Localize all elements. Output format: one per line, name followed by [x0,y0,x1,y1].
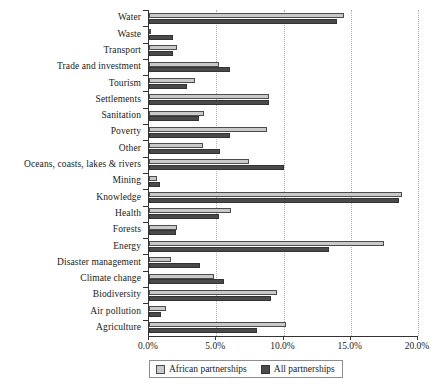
bar-all-partnerships [149,198,399,203]
x-tick [148,336,149,340]
bar-african-partnerships [149,208,231,213]
bar-african-partnerships [149,159,249,164]
bar-african-partnerships [149,322,286,327]
legend-item-african: African partnerships [156,364,247,374]
bar-african-partnerships [149,290,277,295]
bar-row [149,238,418,254]
bar-african-partnerships [149,94,269,99]
category-label: Water [0,10,145,26]
horizontal-bar-chart: WaterWasteTransportTrade and investmentT… [0,0,436,390]
legend-swatch-icon [156,365,165,374]
x-tick-label: 10.0% [270,341,295,351]
bar-row [149,108,418,124]
bar-row [149,222,418,238]
bar-all-partnerships [149,84,187,89]
category-label: Biodiversity [0,287,145,303]
bar-african-partnerships [149,176,157,181]
bar-row [149,303,418,319]
bar-row [149,26,418,42]
bar-all-partnerships [149,312,161,317]
bar-rows [149,10,418,336]
bar-row [149,157,418,173]
category-label: Climate change [0,271,145,287]
bar-row [149,140,418,156]
bar-all-partnerships [149,279,224,284]
bar-all-partnerships [149,35,173,40]
bar-all-partnerships [149,296,271,301]
x-tick-label: 20.0% [405,341,430,351]
bar-african-partnerships [149,274,214,279]
category-label: Poverty [0,124,145,140]
category-label: Air pollution [0,303,145,319]
category-label: Health [0,206,145,222]
bar-african-partnerships [149,143,203,148]
bar-all-partnerships [149,263,200,268]
bar-african-partnerships [149,257,171,262]
x-axis-tick-labels: 0.0%5.0%10.0%15.0%20.0% [0,341,436,355]
bar-african-partnerships [149,306,166,311]
bar-all-partnerships [149,67,230,72]
bar-row [149,320,418,336]
bar-row [149,10,418,26]
bar-all-partnerships [149,247,329,252]
bar-african-partnerships [149,62,219,67]
bar-all-partnerships [149,182,160,187]
bar-african-partnerships [149,241,384,246]
category-label: Waste [0,26,145,42]
bar-african-partnerships [149,78,195,83]
x-tick [350,336,351,340]
x-tick [215,336,216,340]
bar-row [149,189,418,205]
plot-wrapper: WaterWasteTransportTrade and investmentT… [0,0,436,348]
bar-row [149,287,418,303]
bar-row [149,124,418,140]
bar-all-partnerships [149,328,257,333]
category-label: Disaster management [0,254,145,270]
bar-african-partnerships [149,13,344,18]
category-axis-labels: WaterWasteTransportTrade and investmentT… [0,10,145,336]
x-tick-label: 5.0% [205,341,225,351]
x-tick [417,336,418,340]
legend-label: All partnerships [274,364,335,374]
bar-all-partnerships [149,100,269,105]
category-label: Settlements [0,91,145,107]
bar-row [149,59,418,75]
legend-swatch-icon [261,365,270,374]
bar-row [149,91,418,107]
bar-all-partnerships [149,116,199,121]
x-tick-label: 0.0% [138,341,158,351]
bar-row [149,43,418,59]
category-label: Forests [0,222,145,238]
bar-african-partnerships [149,192,402,197]
x-tick-label: 15.0% [337,341,362,351]
x-tick [283,336,284,340]
bar-all-partnerships [149,19,337,24]
bar-row [149,173,418,189]
bar-african-partnerships [149,127,267,132]
gridline [418,10,419,336]
bar-row [149,271,418,287]
category-label: Tourism [0,75,145,91]
bar-african-partnerships [149,111,204,116]
bar-all-partnerships [149,149,220,154]
category-label: Mining [0,173,145,189]
bar-african-partnerships [149,45,177,50]
bar-row [149,206,418,222]
category-label: Other [0,140,145,156]
bar-all-partnerships [149,165,284,170]
category-label: Oceans, coasts, lakes & rivers [0,157,145,173]
bar-row [149,254,418,270]
bar-african-partnerships [149,29,151,34]
category-label: Energy [0,238,145,254]
bar-all-partnerships [149,133,230,138]
bar-all-partnerships [149,214,219,219]
category-label: Transport [0,43,145,59]
category-label: Trade and investment [0,59,145,75]
category-label: Agriculture [0,320,145,336]
bar-row [149,75,418,91]
chart-legend: African partnershipsAll partnerships [149,360,343,378]
bar-african-partnerships [149,225,177,230]
legend-item-all: All partnerships [261,364,335,374]
bar-all-partnerships [149,51,173,56]
category-label: Knowledge [0,189,145,205]
